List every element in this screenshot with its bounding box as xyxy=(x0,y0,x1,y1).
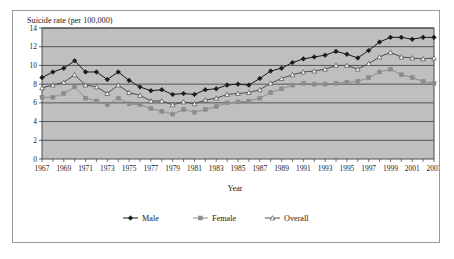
data-point-marker xyxy=(105,103,109,107)
data-point-marker xyxy=(432,81,436,85)
data-point-marker xyxy=(192,110,196,114)
data-point-marker xyxy=(116,96,120,100)
y-tick-label-12: 12 xyxy=(30,42,38,51)
data-point-marker xyxy=(345,80,349,84)
x-tick-label-1969: 1969 xyxy=(56,164,71,173)
suicide-rate-line-chart: 02468101214 1967196919711973197519771979… xyxy=(13,11,439,242)
x-tick-label-2001: 2001 xyxy=(405,164,420,173)
x-tick-label-1977: 1977 xyxy=(143,164,158,173)
data-point-marker xyxy=(149,107,153,111)
data-point-marker xyxy=(269,91,273,95)
data-point-marker xyxy=(367,76,371,80)
x-tick-label-1995: 1995 xyxy=(339,164,354,173)
data-point-marker xyxy=(127,102,131,106)
data-point-marker xyxy=(378,70,382,74)
legend-item-overall[interactable]: Overall xyxy=(265,214,309,223)
x-axis-tick-labels: 1967196919711973197519771979198119831985… xyxy=(35,159,439,173)
x-tick-label-1979: 1979 xyxy=(165,164,180,173)
data-point-marker xyxy=(160,109,164,113)
data-point-marker xyxy=(51,95,55,99)
x-tick-label-1981: 1981 xyxy=(187,164,202,173)
chart-figure-frame: 02468101214 1967196919711973197519771979… xyxy=(12,10,440,243)
y-tick-label-0: 0 xyxy=(33,155,37,164)
x-tick-label-1985: 1985 xyxy=(231,164,246,173)
data-point-marker xyxy=(323,82,327,86)
legend-label-male: Male xyxy=(142,214,159,223)
x-tick-label-1999: 1999 xyxy=(383,164,398,173)
data-point-marker xyxy=(84,96,88,100)
x-tick-label-1967: 1967 xyxy=(35,164,50,173)
data-point-marker xyxy=(182,107,186,111)
data-point-marker xyxy=(290,83,294,87)
data-point-marker xyxy=(258,96,262,100)
y-axis-tick-labels: 02468101214 xyxy=(30,24,42,164)
legend-label-female: Female xyxy=(212,214,236,223)
chart-legend: MaleFemaleOverall xyxy=(123,214,309,223)
data-point-marker xyxy=(73,85,77,89)
data-point-marker xyxy=(128,216,133,221)
data-point-marker xyxy=(410,76,414,80)
data-point-marker xyxy=(236,100,240,104)
data-point-marker xyxy=(62,92,66,96)
x-tick-label-1989: 1989 xyxy=(274,164,289,173)
data-point-marker xyxy=(301,81,305,85)
legend-item-female[interactable]: Female xyxy=(193,214,236,223)
data-point-marker xyxy=(356,79,360,83)
data-point-marker xyxy=(399,73,403,77)
y-tick-label-4: 4 xyxy=(33,117,37,126)
x-tick-label-1993: 1993 xyxy=(318,164,333,173)
data-point-marker xyxy=(421,79,425,83)
data-point-marker xyxy=(199,216,203,220)
y-tick-label-10: 10 xyxy=(30,61,38,70)
data-point-marker xyxy=(388,67,392,71)
x-tick-label-2003: 2003 xyxy=(427,164,439,173)
y-tick-label-2: 2 xyxy=(33,136,37,145)
y-tick-label-6: 6 xyxy=(33,98,37,107)
data-point-marker xyxy=(334,81,338,85)
x-tick-label-1975: 1975 xyxy=(122,164,137,173)
legend-label-overall: Overall xyxy=(284,214,309,223)
x-tick-label-1997: 1997 xyxy=(361,164,376,173)
chart-title: Suicide rate (per 100,000) xyxy=(27,16,113,25)
data-point-marker xyxy=(247,99,251,103)
x-tick-label-1983: 1983 xyxy=(209,164,224,173)
data-point-marker xyxy=(171,112,175,116)
x-axis-title: Year xyxy=(227,184,242,193)
data-point-marker xyxy=(138,103,142,107)
legend-item-male[interactable]: Male xyxy=(123,214,159,223)
data-point-marker xyxy=(280,87,284,91)
data-point-marker xyxy=(40,95,44,99)
x-tick-label-1971: 1971 xyxy=(78,164,93,173)
data-point-marker xyxy=(312,82,316,86)
x-tick-label-1991: 1991 xyxy=(296,164,311,173)
data-point-marker xyxy=(225,101,229,105)
data-point-marker xyxy=(94,99,98,103)
data-point-marker xyxy=(214,105,218,109)
data-point-marker xyxy=(203,107,207,111)
x-tick-label-1973: 1973 xyxy=(100,164,115,173)
y-tick-label-8: 8 xyxy=(33,80,37,89)
x-tick-label-1987: 1987 xyxy=(252,164,267,173)
